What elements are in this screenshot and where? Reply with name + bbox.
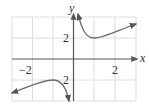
- y-tick-label-neg2: 2: [63, 73, 69, 87]
- y-axis-label: y: [68, 1, 75, 15]
- y-tick-label-2: 2: [63, 31, 69, 45]
- x-axis-label: x: [139, 51, 146, 65]
- x-tick-label-neg2: −2: [19, 63, 32, 77]
- x-tick-label-2: 2: [112, 63, 118, 77]
- function-graph: y x 2 2 −2 2: [0, 0, 149, 108]
- curve-right-branch: [78, 14, 136, 38]
- curve-left-branch: [12, 80, 69, 101]
